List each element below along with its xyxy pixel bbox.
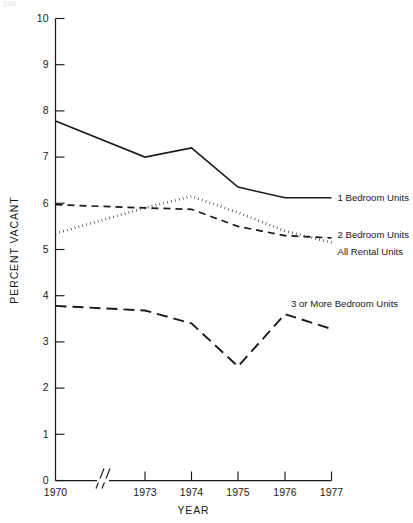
series-annotation-label: 2 Bedroom Units (338, 229, 410, 240)
y-tick-label: 7 (43, 150, 49, 162)
line-chart-canvas: 012345678910 197019731974197519761977 1 … (0, 0, 413, 523)
y-tick-label: 0 (43, 474, 49, 486)
x-tick-label: 1975 (226, 486, 250, 498)
chart-figure: 100 012345678910 19701973197419751976197… (0, 0, 413, 523)
series-annotation-label: 3 or More Bedroom Units (291, 298, 398, 309)
y-tick-label: 8 (43, 104, 49, 116)
series-lines (56, 121, 332, 366)
series-line-3 (56, 205, 332, 238)
axis-titles: YEARPERCENT VACANT (8, 196, 210, 516)
series-labels: 1 Bedroom Units2 Bedroom UnitsAll Rental… (291, 192, 409, 309)
series-line-1 (56, 121, 332, 198)
x-tick-label: 1977 (320, 486, 344, 498)
y-tick-label: 2 (43, 381, 49, 393)
y-tick-label: 3 (43, 335, 49, 347)
y-tick-label: 4 (43, 289, 49, 301)
x-tick-label: 1974 (180, 486, 204, 498)
y-tick-label: 10 (37, 12, 49, 24)
y-tick-label: 9 (43, 58, 49, 70)
series-line-4 (56, 306, 332, 367)
x-tick-label: 1976 (273, 486, 297, 498)
y-tick-label: 6 (43, 197, 49, 209)
series-line-2 (56, 196, 332, 242)
y-axis-title: PERCENT VACANT (8, 196, 20, 303)
y-axis: 012345678910 (37, 12, 65, 486)
x-tick-label: 1970 (44, 486, 68, 498)
axis-break-mark (96, 469, 110, 489)
x-axis: 197019731974197519761977 (44, 469, 344, 498)
y-tick-label: 1 (43, 428, 49, 440)
y-tick-label: 5 (43, 243, 49, 255)
x-tick-label: 1973 (133, 486, 157, 498)
series-annotation-label: All Rental Units (338, 246, 404, 257)
x-axis-title: YEAR (177, 504, 209, 516)
series-annotation-label: 1 Bedroom Units (338, 192, 410, 203)
